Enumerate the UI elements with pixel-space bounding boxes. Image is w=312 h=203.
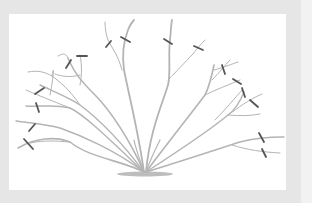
cut-mark <box>250 100 258 107</box>
ground-shadow <box>117 172 173 177</box>
cut-mark <box>29 124 35 131</box>
cut-mark <box>35 88 44 94</box>
cut-mark <box>36 103 39 112</box>
cut-mark <box>262 149 266 157</box>
shrub-illustration <box>0 0 312 203</box>
